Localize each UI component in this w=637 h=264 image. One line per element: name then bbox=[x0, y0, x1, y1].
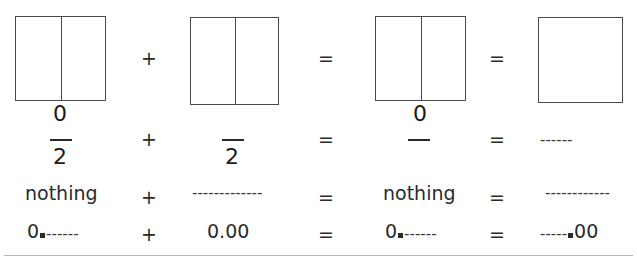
denominator-digit-1: 2 bbox=[53, 146, 67, 168]
diagram-box-2 bbox=[190, 17, 279, 105]
decimal-cell-2: 0.00 bbox=[207, 222, 249, 241]
operator-plus-row4: + bbox=[141, 225, 157, 244]
operator-equals-1-row4: = bbox=[318, 225, 334, 244]
decimal-cell-3: 0 ------ bbox=[385, 222, 437, 241]
decimal-cell-1-dashes: ------ bbox=[46, 227, 78, 242]
diagram-box-3 bbox=[375, 16, 466, 101]
fraction-bar-2 bbox=[222, 139, 244, 141]
decimal-cell-4: ----- 00 bbox=[540, 222, 598, 241]
decimal-cell-3-prefix: 0 bbox=[385, 222, 397, 241]
word-cell-4-dashes: ------------ bbox=[545, 186, 610, 201]
decimal-cell-4-dashes: ----- bbox=[540, 227, 567, 242]
numerator-digit-1: 0 bbox=[53, 103, 67, 125]
operator-equals-1-row1: = bbox=[318, 49, 334, 68]
decimal-cell-2-prefix: 0.00 bbox=[207, 222, 249, 241]
operator-equals-2-row1: = bbox=[489, 49, 505, 68]
square-mark-icon-4 bbox=[568, 233, 573, 238]
square-mark-icon-1 bbox=[40, 233, 45, 238]
fraction-bar-3 bbox=[408, 139, 430, 141]
denominator-digit-2: 2 bbox=[225, 146, 239, 168]
bottom-divider-rule bbox=[4, 255, 633, 256]
diagram-box-1 bbox=[15, 16, 106, 101]
diagram-box-4 bbox=[538, 17, 623, 103]
operator-equals-2-row4: = bbox=[489, 225, 505, 244]
operator-plus-row1: + bbox=[141, 49, 157, 68]
decimal-cell-3-dashes: ------ bbox=[404, 227, 436, 242]
word-cell-1: nothing bbox=[25, 184, 98, 203]
operator-plus-row3: + bbox=[141, 188, 157, 207]
fraction-equation-figure: + = = 0 0 ------ 2 2 + = = nothing -----… bbox=[0, 0, 637, 264]
word-cell-3: nothing bbox=[383, 184, 456, 203]
fraction-bar-4-dashes: ------ bbox=[540, 133, 572, 148]
box-divider-1 bbox=[61, 17, 62, 100]
fraction-bar-1 bbox=[50, 139, 72, 141]
decimal-cell-4-suffix: 00 bbox=[574, 222, 598, 241]
square-mark-icon-3 bbox=[398, 233, 403, 238]
box-divider-2 bbox=[235, 18, 236, 104]
operator-plus-row2: + bbox=[141, 130, 157, 149]
decimal-cell-1: 0 ------ bbox=[27, 222, 79, 241]
operator-equals-1-row3: = bbox=[318, 188, 334, 207]
operator-equals-2-row3: = bbox=[489, 188, 505, 207]
numerator-digit-3: 0 bbox=[413, 103, 427, 125]
decimal-cell-1-prefix: 0 bbox=[27, 222, 39, 241]
operator-equals-1-row2: = bbox=[318, 130, 334, 149]
box-divider-3 bbox=[421, 17, 422, 100]
operator-equals-2-row2: = bbox=[489, 130, 505, 149]
word-cell-2-dashes: ------------- bbox=[192, 186, 262, 201]
